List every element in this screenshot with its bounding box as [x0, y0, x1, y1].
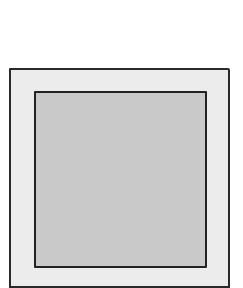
inner-square [34, 91, 207, 268]
